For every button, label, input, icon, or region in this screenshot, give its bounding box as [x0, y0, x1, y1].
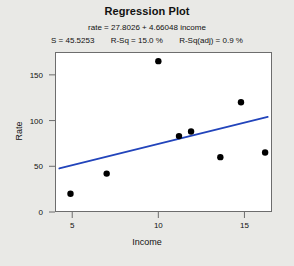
- y-tick-label-0: 0: [13, 208, 43, 217]
- x-axis-title: Income: [0, 237, 294, 247]
- y-tick-label-1: 50: [13, 162, 43, 171]
- regression-stats: S = 45.5253 R-Sq = 15.0 % R-Sq(adj) = 0.…: [0, 36, 294, 45]
- regression-equation: rate = 27.8026 + 4.66048 income: [0, 23, 294, 32]
- x-tick-label-0: 5: [60, 221, 84, 230]
- y-axis-title: Rate: [14, 101, 24, 161]
- y-tick-label-3: 150: [13, 70, 43, 79]
- regression-plot-figure: Regression Plot rate = 27.8026 + 4.66048…: [0, 0, 294, 266]
- stat-r-sq-adj: R-Sq(adj) = 0.9 %: [179, 36, 243, 45]
- x-tick-label-1: 10: [146, 221, 170, 230]
- stat-s: S = 45.5253: [51, 36, 94, 45]
- x-tick-label-2: 15: [232, 221, 256, 230]
- plot-area: [55, 52, 272, 212]
- chart-title: Regression Plot: [0, 5, 294, 17]
- stat-r-sq: R-Sq = 15.0 %: [111, 36, 163, 45]
